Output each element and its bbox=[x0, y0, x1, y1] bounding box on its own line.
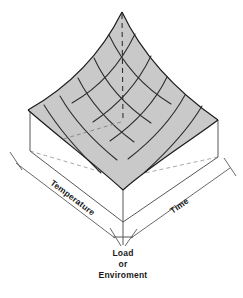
response-surface-figure: Temperature Time Load or Enviroment bbox=[0, 0, 243, 298]
temperature-bracket-start bbox=[10, 152, 22, 170]
response-axis-group bbox=[113, 222, 133, 245]
response-axis-label: Load or Enviroment bbox=[63, 248, 183, 281]
time-bracket-end bbox=[224, 158, 236, 176]
response-axis-label-line-3: Enviroment bbox=[63, 270, 183, 281]
response-axis-label-line-2: or bbox=[63, 259, 183, 270]
temperature-dimension-line bbox=[16, 163, 115, 238]
response-axis-label-line-1: Load bbox=[63, 248, 183, 259]
